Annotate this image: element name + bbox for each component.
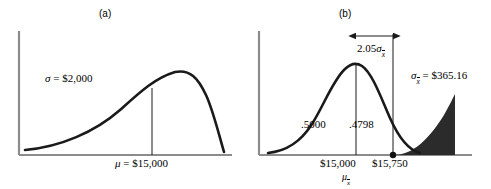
panel-a-mu-value: $15,000 (132, 157, 168, 169)
panel-a-plot (19, 31, 232, 155)
panel-b-title: (b) (339, 8, 351, 19)
panel-b-mean-mu-subscript: x (347, 180, 350, 187)
panel-a-mu-label: μ = $15,000 (115, 158, 168, 169)
panel-b-area-right-label: .4798 (349, 119, 374, 130)
panel-b-standard-error-label: σx = $365.16 (411, 70, 467, 84)
panel-a-sigma-equals: = (53, 72, 62, 84)
panel-b-arrow-sigma-subscript: x (382, 51, 385, 58)
panel-b-sigma-value: $365.16 (431, 69, 467, 81)
panel-b-bound-tick-label: $15,750 (372, 158, 408, 169)
panel-b-shaded-tail (393, 94, 455, 155)
panel-b-area-left-label: .5000 (301, 119, 326, 130)
panel-b-mean-axis-symbol: μx (342, 172, 350, 185)
panel-b-sigma-subscript: x (416, 78, 419, 85)
panel-a-sigma-label: σ = $2,000 (45, 73, 92, 84)
figure-canvas (0, 0, 491, 189)
panel-a-title: (a) (99, 8, 111, 19)
panel-b-z-coefficient: 2.05 (357, 42, 376, 54)
panel-b-span-arrow-label: 2.05σx (357, 43, 385, 57)
panel-a-sigma-symbol: σ (45, 72, 50, 84)
panel-a-mu-equals: = (123, 157, 132, 169)
panel-a-sigma-value: $2,000 (62, 72, 92, 84)
panel-b-mean-tick-label: $15,000 (320, 158, 356, 169)
panel-a-mu-symbol: μ (115, 157, 121, 169)
panel-b-density-curve (268, 64, 420, 153)
figure-root: (a) (b) σ = $2,000 μ = $15,000 2.05σx σx… (0, 0, 491, 189)
